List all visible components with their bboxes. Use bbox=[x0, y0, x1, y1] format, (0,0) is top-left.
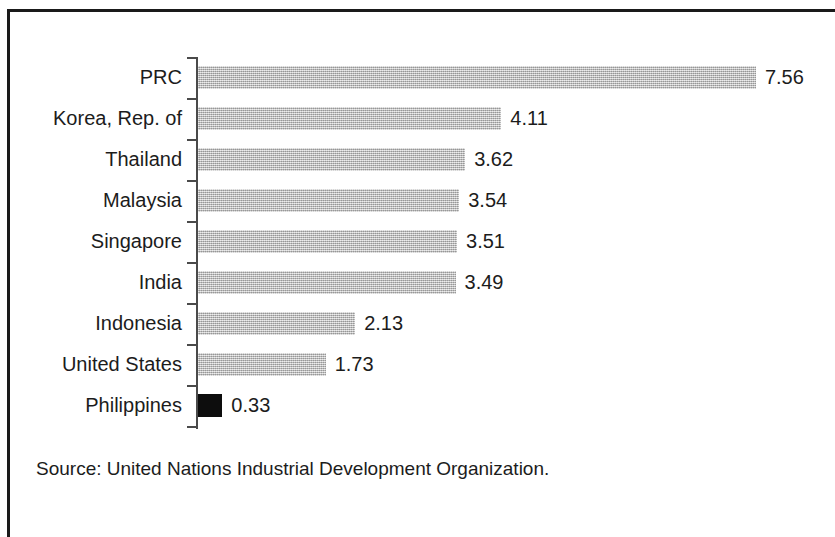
bar-value-label: 0.33 bbox=[231, 394, 270, 417]
axis-tick bbox=[187, 426, 196, 428]
axis-tick bbox=[187, 221, 196, 223]
category-label-united-states: United States bbox=[0, 344, 182, 385]
axis-tick bbox=[187, 180, 196, 182]
bar-india bbox=[198, 271, 456, 294]
chart-figure: PRC7.56Korea, Rep. of4.11Thailand3.62Mal… bbox=[0, 0, 835, 537]
axis-tick bbox=[187, 57, 196, 59]
bar-value-label: 7.56 bbox=[765, 66, 804, 89]
axis-tick bbox=[187, 98, 196, 100]
bar-prc bbox=[198, 66, 756, 89]
chart-row: Korea, Rep. of4.11 bbox=[0, 98, 835, 139]
category-label-india: India bbox=[0, 262, 182, 303]
plot-area: PRC7.56Korea, Rep. of4.11Thailand3.62Mal… bbox=[0, 0, 835, 537]
category-label-thailand: Thailand bbox=[0, 139, 182, 180]
bar-value-label: 3.62 bbox=[474, 148, 513, 171]
category-label-malaysia: Malaysia bbox=[0, 180, 182, 221]
bar-indonesia bbox=[198, 312, 355, 335]
category-label-prc: PRC bbox=[0, 57, 182, 98]
bar-value-label: 1.73 bbox=[335, 353, 374, 376]
chart-row: United States1.73 bbox=[0, 344, 835, 385]
bar-singapore bbox=[198, 230, 457, 253]
chart-row: Thailand3.62 bbox=[0, 139, 835, 180]
bar-malaysia bbox=[198, 189, 459, 212]
chart-row: Philippines0.33 bbox=[0, 385, 835, 426]
axis-tick bbox=[187, 303, 196, 305]
category-label-singapore: Singapore bbox=[0, 221, 182, 262]
category-label-philippines: Philippines bbox=[0, 385, 182, 426]
category-label-korea-rep-of: Korea, Rep. of bbox=[0, 98, 182, 139]
axis-tick bbox=[187, 262, 196, 264]
chart-row: Singapore3.51 bbox=[0, 221, 835, 262]
source-note: Source: United Nations Industrial Develo… bbox=[36, 458, 549, 480]
chart-row: PRC7.56 bbox=[0, 57, 835, 98]
axis-tick bbox=[187, 344, 196, 346]
bar-value-label: 2.13 bbox=[364, 312, 403, 335]
bar-thailand bbox=[198, 148, 465, 171]
bar-philippines bbox=[198, 394, 222, 417]
bar-value-label: 3.51 bbox=[466, 230, 505, 253]
axis-tick bbox=[187, 385, 196, 387]
bar-value-label: 4.11 bbox=[510, 107, 547, 130]
chart-row: Malaysia3.54 bbox=[0, 180, 835, 221]
chart-row: Indonesia2.13 bbox=[0, 303, 835, 344]
bar-value-label: 3.54 bbox=[468, 189, 507, 212]
bar-korea-rep-of bbox=[198, 107, 501, 130]
bar-value-label: 3.49 bbox=[465, 271, 504, 294]
chart-row: India3.49 bbox=[0, 262, 835, 303]
category-label-indonesia: Indonesia bbox=[0, 303, 182, 344]
bar-united-states bbox=[198, 353, 326, 376]
axis-tick bbox=[187, 139, 196, 141]
